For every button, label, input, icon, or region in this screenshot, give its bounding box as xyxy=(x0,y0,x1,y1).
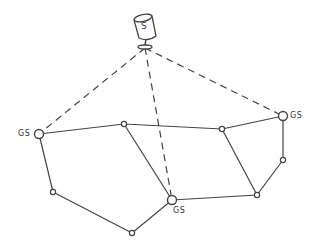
network-node xyxy=(50,189,55,194)
link xyxy=(124,124,172,200)
gs-right-label: GS xyxy=(290,111,302,120)
link xyxy=(39,124,124,134)
satellite-link xyxy=(39,48,145,134)
link xyxy=(53,192,132,233)
network-node xyxy=(219,126,224,131)
network-graph xyxy=(0,0,318,246)
ground-links xyxy=(39,116,283,233)
gs-bottom-label: GS xyxy=(173,206,185,215)
network-node xyxy=(129,230,134,235)
ground-station-node xyxy=(279,112,288,121)
network-node xyxy=(280,157,285,162)
satellite-link xyxy=(145,48,283,116)
link xyxy=(132,200,172,233)
ground-station-node xyxy=(168,196,177,205)
network-node xyxy=(121,121,126,126)
link xyxy=(124,124,222,129)
link xyxy=(172,195,257,200)
link xyxy=(222,129,257,195)
satellite-link xyxy=(145,48,172,200)
satellite-network-diagram: S GS GS GS xyxy=(0,0,318,246)
network-node xyxy=(254,192,259,197)
link xyxy=(222,116,283,129)
link xyxy=(39,134,53,192)
link xyxy=(257,160,283,195)
gs-left-label: GS xyxy=(18,129,30,138)
ground-station-node xyxy=(35,130,44,139)
satellite-label: S xyxy=(141,21,147,31)
